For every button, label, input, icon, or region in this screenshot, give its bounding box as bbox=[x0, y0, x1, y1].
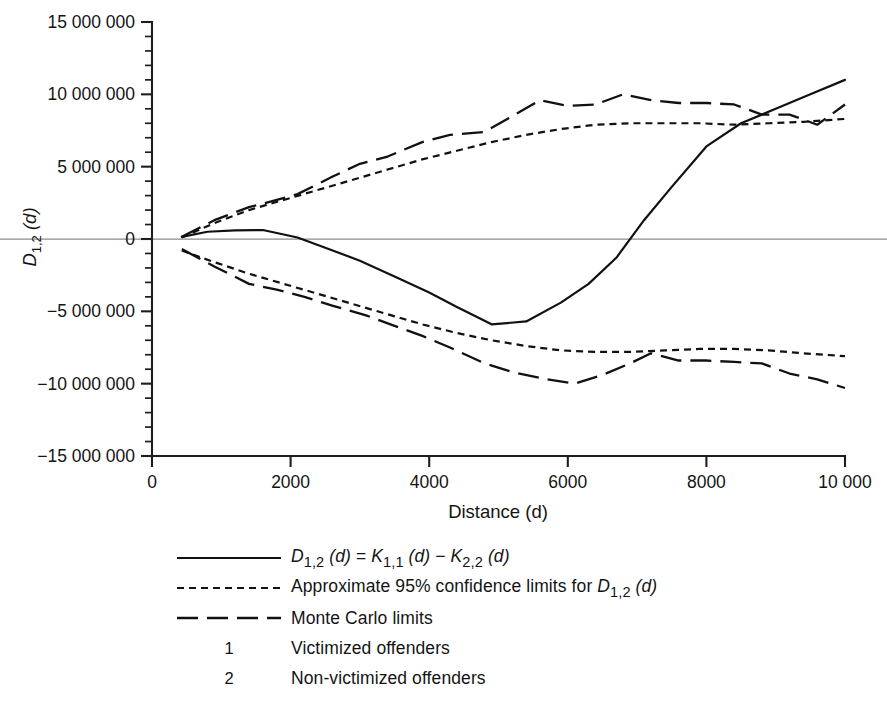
confidence-prefix: Approximate 95% confidence limits for bbox=[291, 576, 592, 596]
formula-d: D bbox=[291, 546, 304, 566]
figure-container: 15 000 00010 000 0005 000 0000−5 000 000… bbox=[0, 0, 887, 701]
legend-key-dotted-line bbox=[167, 573, 291, 603]
formula-equals: = bbox=[356, 546, 366, 566]
y-tick-label: −15 000 000 bbox=[37, 446, 135, 466]
y-tick-label: 15 000 000 bbox=[47, 12, 135, 32]
formula-k2: K bbox=[451, 546, 463, 566]
series-path-3 bbox=[182, 94, 845, 237]
y-axis-title: D1,2 (d) bbox=[19, 207, 44, 266]
y-tick-label: 5 000 000 bbox=[57, 157, 135, 177]
x-axis-title: Distance (d) bbox=[448, 501, 548, 522]
legend-key-dashed-line bbox=[167, 603, 291, 633]
series-path-1 bbox=[182, 119, 845, 238]
x-tick-label: 2000 bbox=[271, 472, 310, 492]
legend-key-solid-line bbox=[167, 543, 291, 573]
chart-legend: D1,2 (d) = K1,1 (d) − K2,2 (d) Approxima… bbox=[167, 543, 767, 693]
confidence-d-sub: 1,2 bbox=[610, 584, 631, 600]
legend-row-confidence: Approximate 95% confidence limits for D1… bbox=[167, 573, 767, 603]
y-axis-title-arg: (d) bbox=[19, 207, 40, 230]
confidence-arg: (d) bbox=[636, 576, 658, 596]
legend-label-difference-formula: D1,2 (d) = K1,1 (d) − K2,2 (d) bbox=[291, 546, 510, 570]
legend-number-2: 2 bbox=[167, 669, 291, 688]
formula-arg3: (d) bbox=[488, 546, 510, 566]
legend-label-confidence-limits: Approximate 95% confidence limits for D1… bbox=[291, 576, 657, 600]
formula-minus: − bbox=[435, 546, 445, 566]
x-tick-label: 4000 bbox=[410, 472, 449, 492]
y-axis-title-subscript: 1,2 bbox=[29, 235, 44, 253]
legend-label-victimized-offenders: Victimized offenders bbox=[291, 638, 450, 659]
formula-k1: K bbox=[371, 546, 383, 566]
y-tick-label: 0 bbox=[125, 229, 135, 249]
formula-k1-sub: 1,1 bbox=[383, 554, 404, 570]
series-path-0 bbox=[182, 80, 845, 324]
svg-text:D1,2 (d): D1,2 (d) bbox=[19, 207, 44, 266]
formula-d-sub: 1,2 bbox=[304, 554, 325, 570]
x-tick-label: 8000 bbox=[687, 472, 726, 492]
data-series-group bbox=[182, 80, 845, 388]
y-tick-label: −5 000 000 bbox=[47, 301, 135, 321]
series-path-2 bbox=[182, 251, 845, 357]
y-tick-label: −10 000 000 bbox=[37, 374, 135, 394]
y-tick-label: 10 000 000 bbox=[47, 84, 135, 104]
y-axis-title-symbol: D bbox=[19, 253, 40, 266]
series-path-4 bbox=[182, 249, 845, 388]
formula-arg2: (d) bbox=[409, 546, 431, 566]
confidence-d: D bbox=[597, 576, 610, 596]
legend-row-group-1: 1 Victimized offenders bbox=[167, 633, 767, 663]
tick-marks-group bbox=[141, 22, 845, 467]
formula-arg1: (d) bbox=[329, 546, 351, 566]
legend-number-1: 1 bbox=[167, 639, 291, 658]
legend-row-solid: D1,2 (d) = K1,1 (d) − K2,2 (d) bbox=[167, 543, 767, 573]
x-tick-label: 10 000 bbox=[818, 472, 872, 492]
x-tick-label: 0 bbox=[147, 472, 157, 492]
legend-label-monte-carlo: Monte Carlo limits bbox=[291, 608, 433, 629]
x-tick-label: 6000 bbox=[548, 472, 587, 492]
legend-label-non-victimized-offenders: Non-victimized offenders bbox=[291, 668, 486, 689]
legend-row-monte-carlo: Monte Carlo limits bbox=[167, 603, 767, 633]
tick-labels-group: 15 000 00010 000 0005 000 0000−5 000 000… bbox=[37, 12, 872, 492]
formula-k2-sub: 2,2 bbox=[462, 554, 483, 570]
legend-row-group-2: 2 Non-victimized offenders bbox=[167, 663, 767, 693]
